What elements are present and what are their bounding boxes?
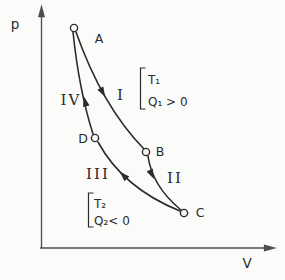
cold-reservoir-line-2: Q₂< 0 <box>94 214 130 228</box>
process-curve-IV <box>73 32 93 134</box>
process-label-III: III <box>86 165 110 183</box>
pv-diagram-canvas: pVIIIIIIIVABCDT₁Q₁ > 0T₂Q₂< 0 <box>0 0 285 280</box>
process-arrow-IV-icon <box>81 96 90 107</box>
state-label-C: C <box>196 205 205 220</box>
state-label-D: D <box>78 131 88 146</box>
state-point-C <box>180 209 187 216</box>
process-label-IV: IV <box>61 91 82 109</box>
process-arrow-I-icon <box>97 87 108 99</box>
x-axis-label: V <box>242 255 252 271</box>
process-label-I: I <box>117 86 125 104</box>
y-axis-label: p <box>11 16 20 32</box>
state-label-B: B <box>156 144 165 159</box>
pv-diagram: pVIIIIIIIVABCDT₁Q₁ > 0T₂Q₂< 0 <box>0 0 285 280</box>
state-label-A: A <box>95 31 104 46</box>
hot-reservoir-bracket-icon <box>141 68 146 109</box>
state-point-D <box>91 134 98 141</box>
cold-reservoir-bracket-icon <box>89 193 94 227</box>
state-point-A <box>70 24 77 31</box>
process-label-II: II <box>167 169 183 187</box>
cold-reservoir-line-1: T₂ <box>93 197 106 211</box>
hot-reservoir-line-2: Q₁ > 0 <box>148 95 188 109</box>
hot-reservoir-line-1: T₁ <box>147 73 160 87</box>
y-axis-arrow-icon <box>38 4 45 17</box>
state-point-B <box>142 148 149 155</box>
x-axis-arrow-icon <box>264 245 277 252</box>
